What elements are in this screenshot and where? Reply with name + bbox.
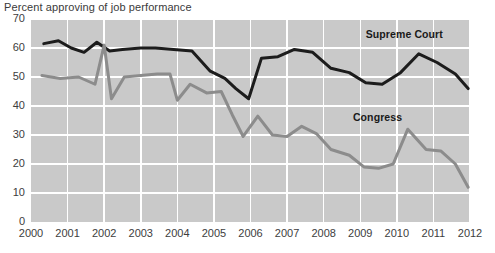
y-tick-label: 0	[1, 215, 25, 227]
x-tick-label: 2006	[238, 227, 262, 239]
y-tick-label: 70	[1, 12, 25, 24]
y-tick-label: 40	[1, 99, 25, 111]
x-tick-label: 2007	[275, 227, 299, 239]
x-tick-label: 2009	[348, 227, 372, 239]
series-line	[42, 45, 468, 187]
x-tick-label: 2012	[458, 227, 482, 239]
x-tick-label: 2001	[55, 227, 79, 239]
x-tick-label: 2011	[422, 227, 446, 239]
x-tick-label: 2004	[165, 227, 189, 239]
x-tick-label: 2008	[311, 227, 335, 239]
series-lines	[31, 19, 470, 222]
x-tick-label: 2005	[202, 227, 226, 239]
plot-area	[31, 19, 470, 222]
y-tick-label: 60	[1, 41, 25, 53]
x-tick-label: 2000	[19, 227, 43, 239]
y-tick-label: 20	[1, 157, 25, 169]
series-label-congress: Congress	[353, 111, 402, 123]
x-tick-label: 2010	[385, 227, 409, 239]
series-label-supreme-court: Supreme Court	[366, 28, 443, 40]
x-tick-label: 2003	[129, 227, 153, 239]
x-tick-label: 2002	[92, 227, 116, 239]
y-tick-label: 30	[1, 128, 25, 140]
y-tick-label: 50	[1, 70, 25, 82]
y-tick-label: 10	[1, 186, 25, 198]
chart-figure: Percent approving of job performance 010…	[0, 0, 495, 253]
chart-title: Percent approving of job performance	[4, 1, 192, 13]
